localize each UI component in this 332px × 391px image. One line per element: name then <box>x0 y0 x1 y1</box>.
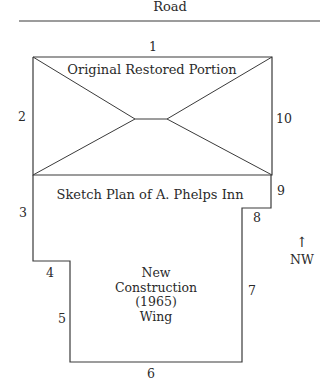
wall-label-7: 7 <box>248 284 256 298</box>
north-arrow-icon: ↑ <box>296 235 308 249</box>
new-wing-line-2: Construction <box>115 281 197 296</box>
wall-label-6: 6 <box>147 367 155 381</box>
road-label: Road <box>153 0 187 14</box>
new-wing-label: New Construction (1965) Wing <box>115 266 197 324</box>
new-wing-line-3: (1965) <box>115 295 197 310</box>
wall-label-4: 4 <box>46 266 54 280</box>
wall-label-9: 9 <box>277 184 285 198</box>
wall-label-2: 2 <box>18 110 26 124</box>
plan-title: Sketch Plan of A. Phelps Inn <box>56 188 243 202</box>
original-portion-label: Original Restored Portion <box>67 63 236 77</box>
wall-label-3: 3 <box>19 206 27 220</box>
floor-plan-diagram: Road 1 2 3 4 5 6 7 8 9 10 Original Resto… <box>0 0 332 391</box>
new-wing-line-4: Wing <box>115 310 197 325</box>
wall-label-5: 5 <box>58 312 66 326</box>
wall-label-1: 1 <box>149 40 157 54</box>
wall-label-8: 8 <box>253 211 261 225</box>
new-wing-line-1: New <box>115 266 197 281</box>
compass-direction: NW <box>290 253 314 267</box>
wall-label-10: 10 <box>276 112 292 126</box>
